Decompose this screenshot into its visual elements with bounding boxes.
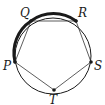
- vertex-label-r: R: [77, 6, 87, 20]
- vertex-label-t: T: [49, 93, 58, 105]
- vertex-label-p: P: [2, 59, 12, 73]
- vertex-label-q: Q: [20, 6, 30, 20]
- vertex-label-s: S: [94, 59, 102, 73]
- pentagon-in-circle-diagram: P Q R S T: [0, 0, 105, 105]
- circumcircle: [15, 18, 91, 94]
- vertex-dot-p: [13, 60, 17, 64]
- vertex-dot-s: [89, 60, 93, 64]
- vertex-dot-t: [52, 88, 56, 92]
- pentagon-pqrst: [15, 21, 91, 90]
